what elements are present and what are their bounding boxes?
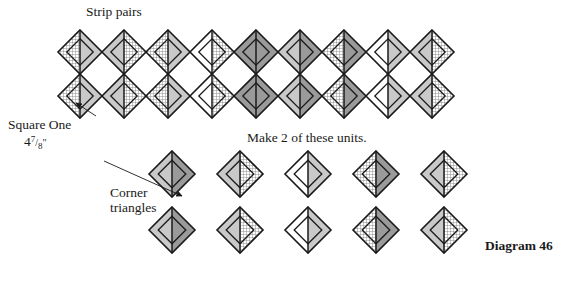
corner-triangle-r0-i3 <box>353 151 399 197</box>
strip-unit-c7-r1 <box>366 74 410 118</box>
diamond-left-half <box>190 30 212 74</box>
diamond-left-half <box>217 207 240 253</box>
diamond-right-half <box>172 151 195 197</box>
diamond-right-half <box>124 74 146 118</box>
diamond-right-half <box>240 207 263 253</box>
corner-triangle-r0-i4 <box>421 151 467 197</box>
diamond-right-half <box>300 74 322 118</box>
diamond-left-half <box>146 30 168 74</box>
corner-triangles-group <box>149 151 467 253</box>
strip-unit-c8-r0 <box>410 30 454 74</box>
strip-unit-c6-r1 <box>322 74 366 118</box>
diamond-left-half <box>278 30 300 74</box>
strip-unit-c4-r1 <box>234 74 278 118</box>
diamond-right-half <box>388 74 410 118</box>
strip-unit-c2-r1 <box>146 74 190 118</box>
corner-triangles-label-line2: triangles <box>110 200 157 215</box>
strip-unit-c8-r1 <box>410 74 454 118</box>
diamond-left-half <box>421 207 444 253</box>
diamond-left-half <box>58 30 80 74</box>
diamond-left-half <box>285 207 308 253</box>
corner-triangle-r1-i4 <box>421 207 467 253</box>
corner-triangle-r0-i2 <box>285 151 331 197</box>
diamond-left-half <box>234 30 256 74</box>
strip-unit-c0-r1 <box>58 74 102 118</box>
diamond-right-half <box>388 30 410 74</box>
diamond-left-half <box>322 30 344 74</box>
strip-unit-c1-r1 <box>102 74 146 118</box>
diamond-right-half <box>376 207 399 253</box>
diamond-right-half <box>80 74 102 118</box>
corner-triangle-r0-i1 <box>217 151 263 197</box>
diamond-right-half <box>344 74 366 118</box>
strip-unit-c1-r0 <box>102 30 146 74</box>
size-fraction: 7/8" <box>31 137 47 148</box>
corner-triangles-label-line1: Corner <box>110 185 148 200</box>
diamond-right-half <box>212 74 234 118</box>
diamond-left-half <box>102 30 124 74</box>
corner-triangle-r0-i0 <box>149 151 195 197</box>
strip-unit-c2-r0 <box>146 30 190 74</box>
diamond-left-half <box>353 207 376 253</box>
strip-unit-c3-r0 <box>190 30 234 74</box>
strip-pairs-label: Strip pairs <box>86 4 142 19</box>
corner-triangle-r1-i2 <box>285 207 331 253</box>
diamond-left-half <box>102 74 124 118</box>
diamond-left-half <box>278 74 300 118</box>
size-value: 4 <box>24 134 31 149</box>
diamond-right-half <box>124 30 146 74</box>
diamond-left-half <box>421 151 444 197</box>
diamond-right-half <box>172 207 195 253</box>
square-one-size-label: 47/8" <box>24 134 47 151</box>
diamond-left-half <box>190 74 212 118</box>
diamond-right-half <box>344 30 366 74</box>
diamond-right-half <box>308 207 331 253</box>
diamond-left-half <box>410 74 432 118</box>
diamond-right-half <box>308 151 331 197</box>
strip-unit-c0-r0 <box>58 30 102 74</box>
strip-unit-c6-r0 <box>322 30 366 74</box>
diamond-left-half <box>234 74 256 118</box>
strip-unit-c7-r0 <box>366 30 410 74</box>
diamond-right-half <box>256 74 278 118</box>
diamond-left-half <box>146 74 168 118</box>
diamond-left-half <box>353 151 376 197</box>
diamond-left-half <box>285 151 308 197</box>
strip-unit-c4-r0 <box>234 30 278 74</box>
corner-triangle-r1-i1 <box>217 207 263 253</box>
strip-unit-c5-r0 <box>278 30 322 74</box>
diamond-right-half <box>168 30 190 74</box>
diamond-right-half <box>212 30 234 74</box>
diagram-number-label: Diagram 46 <box>485 238 553 253</box>
strip-unit-c3-r1 <box>190 74 234 118</box>
strip-pairs-group <box>58 30 454 118</box>
diamond-left-half <box>366 74 388 118</box>
diamond-right-half <box>256 30 278 74</box>
make-units-note: Make 2 of these units. <box>247 130 367 145</box>
diamond-left-half <box>366 30 388 74</box>
corner-triangle-r1-i3 <box>353 207 399 253</box>
diamond-left-half <box>217 151 240 197</box>
square-one-label: Square One <box>8 117 71 132</box>
diamond-left-half <box>410 30 432 74</box>
diamond-left-half <box>322 74 344 118</box>
diagram-canvas: Strip pairs Square One 47/8" Make 2 of t… <box>0 0 571 292</box>
diamond-right-half <box>300 30 322 74</box>
diamond-left-half <box>58 74 80 118</box>
diamond-right-half <box>240 151 263 197</box>
diamond-right-half <box>432 30 454 74</box>
diamond-right-half <box>168 74 190 118</box>
diamond-right-half <box>444 151 467 197</box>
diamond-right-half <box>80 30 102 74</box>
strip-unit-c5-r1 <box>278 74 322 118</box>
diamond-right-half <box>444 207 467 253</box>
diamond-right-half <box>432 74 454 118</box>
diamond-right-half <box>376 151 399 197</box>
